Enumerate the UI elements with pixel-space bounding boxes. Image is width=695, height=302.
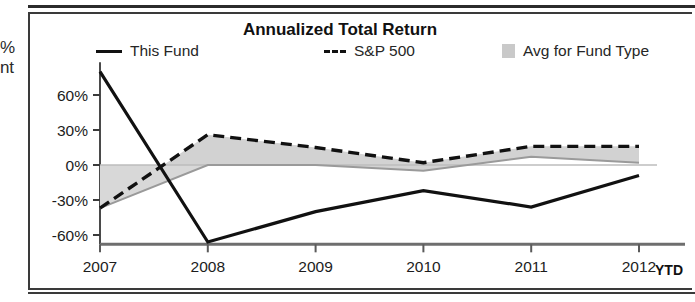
margin-text-fragment-1: % <box>0 38 15 58</box>
x-axis-tick-label: 2008 <box>191 258 225 275</box>
chart-plot-area: 60%30%0%-30%-60%200720082009201020112012 <box>30 14 692 290</box>
x-axis-tick-label: 2011 <box>515 258 548 275</box>
y-axis-tick-label: -60% <box>52 227 88 244</box>
x-axis-tick-label: 2012 <box>622 258 656 275</box>
chart-panel: Annualized Total Return This Fund S&P 50… <box>28 12 692 290</box>
y-axis-tick-label: 30% <box>57 122 88 139</box>
top-divider-rule <box>28 5 695 8</box>
y-axis-tick-label: -30% <box>52 192 88 209</box>
x-axis-tick-label: 2007 <box>83 258 117 275</box>
y-axis-tick-label: 60% <box>57 87 88 104</box>
y-axis-tick-label: 0% <box>66 157 89 174</box>
bottom-divider-rule <box>28 292 695 294</box>
x-axis-tick-label: 2010 <box>406 258 441 275</box>
chart-screenshot: % nt Annualized Total Return This Fund S… <box>0 0 695 302</box>
ytd-annotation: YTD <box>655 262 683 278</box>
x-axis-tick-label: 2009 <box>298 258 332 275</box>
margin-text-fragment-2: nt <box>0 58 14 78</box>
